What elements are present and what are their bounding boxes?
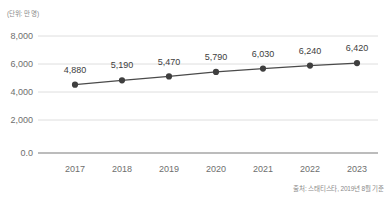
y-tick-label-0: 0.0 (20, 148, 33, 158)
source-note: 출처: 스태티스타, 2019년 8월 기준 (293, 183, 384, 193)
data-label-2021: 6,030 (252, 49, 275, 59)
x-tick-label-2022: 2022 (300, 164, 320, 174)
data-label-2018: 5,190 (111, 60, 134, 70)
data-point-2017[interactable] (72, 82, 78, 88)
x-tick-label-2020: 2020 (206, 164, 226, 174)
data-point-2018[interactable] (119, 77, 125, 83)
line-chart-plot: 8,000 6,000 4,000 2,000 0.0 2017 2018 20… (0, 0, 392, 198)
data-point-2020[interactable] (213, 69, 219, 75)
data-label-2019: 5,470 (158, 57, 181, 67)
data-point-2023[interactable] (354, 60, 360, 66)
x-axis-tick-labels: 2017 2018 2019 2020 2021 2022 2023 (65, 164, 367, 174)
x-tick-label-2019: 2019 (159, 164, 179, 174)
y-tick-label-2000: 2,000 (10, 115, 33, 125)
y-tick-label-4000: 4,000 (10, 87, 33, 97)
x-tick-label-2017: 2017 (65, 164, 85, 174)
data-point-2022[interactable] (307, 63, 313, 69)
chart-container: (단위: 만 명) 8,000 6,000 4,000 2,000 0.0 20… (0, 0, 392, 198)
data-label-2020: 5,790 (205, 52, 228, 62)
data-label-2022: 6,240 (299, 46, 322, 56)
data-point-2019[interactable] (166, 73, 172, 79)
x-tick-label-2021: 2021 (253, 164, 273, 174)
y-tick-label-8000: 8,000 (10, 31, 33, 41)
x-tick-label-2023: 2023 (347, 164, 367, 174)
data-label-2017: 4,880 (64, 65, 87, 75)
data-point-2021[interactable] (260, 66, 266, 72)
y-tick-label-6000: 6,000 (10, 59, 33, 69)
y-axis-tick-labels: 8,000 6,000 4,000 2,000 0.0 (10, 31, 33, 158)
x-tick-label-2018: 2018 (112, 164, 132, 174)
data-label-2023: 6,420 (346, 43, 369, 53)
